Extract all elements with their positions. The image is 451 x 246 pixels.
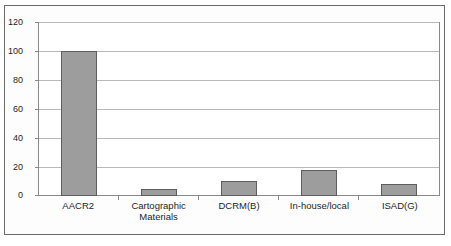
bar-slot-aacr2 [39,22,119,196]
x-axis-label-in-house-local: In-house/local [279,200,359,222]
y-axis-label-100: 100 [0,47,23,56]
x-axis-label-aacr2: AACR2 [38,200,118,222]
bar-chart-figure: 120 100 80 60 40 20 0 AACR2 Cartographic… [0,0,451,246]
x-axis-label-dcrm-b: DCRM(B) [199,200,279,222]
bar-dcrm-b [221,181,257,196]
x-axis-label-line: ISAD(G) [361,200,439,211]
bar-aacr2 [61,51,97,196]
plot-area: 120 100 80 60 40 20 0 [38,22,440,196]
bar-in-house-local [301,170,337,196]
x-axis-label-line: AACR2 [39,200,117,211]
y-axis-label-20: 20 [0,163,23,172]
plot-area-wrapper: 120 100 80 60 40 20 0 [38,22,440,196]
bars-layer [39,22,439,196]
y-axis-label-0: 0 [0,191,23,200]
bar-slot-cartographic-materials [119,22,199,196]
x-axis-label-isad-g: ISAD(G) [360,200,440,222]
y-axis-label-120: 120 [0,18,23,27]
bar-slot-in-house-local [279,22,359,196]
x-axis-label-line: DCRM(B) [200,200,278,211]
bar-cartographic-materials [141,189,177,196]
y-axis-label-60: 60 [0,105,23,114]
x-axis-labels: AACR2 Cartographic Materials DCRM(B) In-… [38,200,440,222]
x-axis-label-line: Cartographic [119,200,197,211]
x-axis-label-cartographic-materials: Cartographic Materials [118,200,198,222]
x-axis-label-line: Materials [119,211,197,222]
y-axis-label-80: 80 [0,76,23,85]
bar-slot-dcrm-b [199,22,279,196]
y-axis-label-40: 40 [0,134,23,143]
bar-isad-g [381,184,417,196]
x-axis-label-line: In-house/local [280,200,358,211]
bar-slot-isad-g [359,22,439,196]
